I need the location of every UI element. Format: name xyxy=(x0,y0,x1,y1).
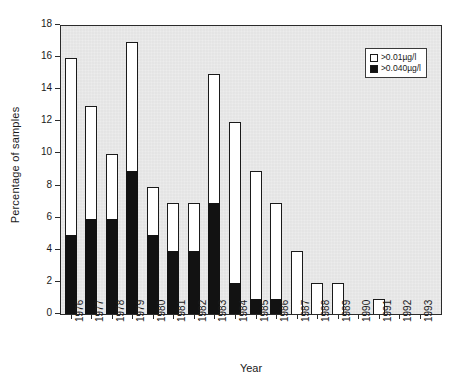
y-tick-mark xyxy=(55,217,60,218)
plot-area: >0.01µg/l>0.040µg/l xyxy=(60,25,442,315)
y-tick-mark xyxy=(55,56,60,57)
legend-swatch-hollow xyxy=(370,54,378,62)
bar-group xyxy=(229,26,241,315)
bar-group xyxy=(270,26,282,315)
x-tick-label: 1978 xyxy=(116,300,126,322)
x-tick-mark xyxy=(379,314,380,319)
bar-group xyxy=(291,26,303,315)
x-tick-mark xyxy=(112,314,113,319)
bar-group xyxy=(85,26,97,315)
x-tick-mark xyxy=(256,314,257,319)
bar-group xyxy=(65,26,77,315)
y-tick-label: 6 xyxy=(46,211,52,223)
y-tick-mark xyxy=(55,88,60,89)
x-axis-title-text: Year xyxy=(240,362,262,374)
x-tick-label: 1979 xyxy=(136,300,146,322)
x-tick-mark xyxy=(173,314,174,319)
bar-group xyxy=(106,26,118,315)
x-tick-label: 1987 xyxy=(301,300,311,322)
x-tick-mark xyxy=(214,314,215,319)
y-tick-mark xyxy=(55,313,60,314)
x-tick-label: 1983 xyxy=(218,300,228,322)
x-tick-mark xyxy=(132,314,133,319)
x-tick-label: 1986 xyxy=(280,300,290,322)
x-tick-label: 1985 xyxy=(260,300,270,322)
x-axis-title: Year xyxy=(60,362,442,374)
y-tick-mark xyxy=(55,185,60,186)
y-tick-mark xyxy=(55,281,60,282)
bar-segment-above-0-01 xyxy=(250,171,262,316)
x-tick-label: 1991 xyxy=(383,300,393,322)
x-tick-mark xyxy=(71,314,72,319)
y-tick-mark xyxy=(55,152,60,153)
y-tick-label: 12 xyxy=(41,114,52,126)
legend-swatch-filled xyxy=(370,65,378,73)
x-tick-label: 1980 xyxy=(157,300,167,322)
x-tick-mark xyxy=(338,314,339,319)
y-tick-label: 4 xyxy=(46,243,52,255)
x-tick-mark xyxy=(420,314,421,319)
x-tick-mark xyxy=(317,314,318,319)
bar-group xyxy=(311,26,323,315)
y-axis-line xyxy=(60,25,61,315)
bar-group xyxy=(250,26,262,315)
x-tick-label: 1990 xyxy=(362,300,372,322)
y-tick-label: 14 xyxy=(41,82,52,94)
y-tick-label: 8 xyxy=(46,179,52,191)
bar-group xyxy=(208,26,220,315)
x-tick-mark xyxy=(235,314,236,319)
x-tick-mark xyxy=(194,314,195,319)
bar-group xyxy=(332,26,344,315)
x-tick-mark xyxy=(276,314,277,319)
legend-item: >0.01µg/l xyxy=(370,52,421,63)
chart-figure: Percentage of samples >0.01µg/l>0.040µg/… xyxy=(0,0,462,388)
x-tick-label: 1981 xyxy=(177,300,187,322)
bar-group xyxy=(188,26,200,315)
y-axis-title: Percentage of samples xyxy=(4,0,26,330)
x-tick-label: 1993 xyxy=(424,300,434,322)
x-tick-mark xyxy=(297,314,298,319)
legend-label: >0.01µg/l xyxy=(381,52,416,63)
x-tick-label: 1977 xyxy=(95,300,105,322)
x-tick-label: 1988 xyxy=(321,300,331,322)
bar-group xyxy=(167,26,179,315)
y-tick-mark xyxy=(55,120,60,121)
x-tick-label: 1992 xyxy=(403,300,413,322)
bar-group xyxy=(147,26,159,315)
y-tick-label: 10 xyxy=(41,146,52,158)
x-tick-mark xyxy=(153,314,154,319)
x-tick-label: 1984 xyxy=(239,300,249,322)
y-tick-label: 0 xyxy=(46,307,52,319)
y-tick-label: 2 xyxy=(46,275,52,287)
x-tick-label: 1982 xyxy=(198,300,208,322)
legend-label: >0.040µg/l xyxy=(381,63,421,74)
bar-segment-above-0-040 xyxy=(208,203,220,315)
x-tick-label: 1976 xyxy=(75,300,85,322)
x-tick-mark xyxy=(358,314,359,319)
y-tick-mark xyxy=(55,24,60,25)
x-tick-mark xyxy=(399,314,400,319)
x-tick-mark xyxy=(91,314,92,319)
x-tick-label: 1989 xyxy=(342,300,352,322)
legend-item: >0.040µg/l xyxy=(370,63,421,74)
y-tick-label: 16 xyxy=(41,50,52,62)
chart-legend: >0.01µg/l>0.040µg/l xyxy=(365,48,427,78)
y-tick-label: 18 xyxy=(41,18,52,30)
bar-segment-above-0-040 xyxy=(126,171,138,316)
y-tick-mark xyxy=(55,249,60,250)
bar-group xyxy=(126,26,138,315)
y-axis-title-text: Percentage of samples xyxy=(9,107,21,224)
